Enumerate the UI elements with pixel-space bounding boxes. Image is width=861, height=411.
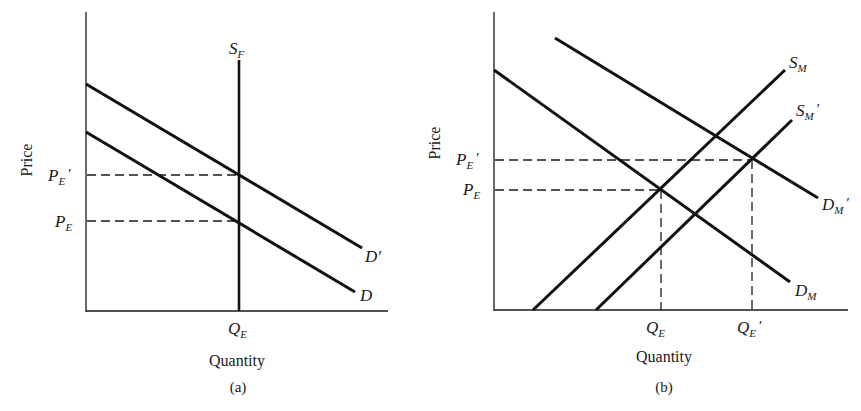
panel-b-supply-sm-prime <box>596 120 792 310</box>
panel-b-qe-label: QE <box>646 318 665 339</box>
panel-a-x-axis-title: Quantity <box>209 352 265 370</box>
panel-a-pe-label: PE <box>54 212 72 233</box>
panel-b-sm-prime-label: SM′ <box>796 101 820 122</box>
panel-b-sm-label: SM <box>789 53 808 74</box>
panel-a-qe-label: QE <box>228 319 247 340</box>
panel-b-demand-dm <box>494 70 790 282</box>
panel-b-dm-label: DM <box>794 281 817 302</box>
panel-b-dm-prime-label: DM′ <box>821 195 849 216</box>
panel-a-caption: (a) <box>230 379 247 396</box>
panel-b-x-axis-title: Quantity <box>636 348 692 366</box>
panel-a-d-prime-label: D′ <box>364 247 381 266</box>
panel-b-caption: (b) <box>655 379 673 396</box>
panel-a-demand-d-prime <box>86 84 362 248</box>
panel-b-demand-dm-prime <box>555 38 818 198</box>
panel-b: SM SM′ DM′ DM PE′ PE QE QE′ Quantity Pri… <box>426 12 849 396</box>
panel-b-pe-label: PE <box>462 180 480 201</box>
panel-b-y-axis-title: Price <box>426 127 443 160</box>
panel-a-d-label: D <box>359 286 373 305</box>
panel-b-pe-prime-label: PE′ <box>455 150 479 171</box>
panel-a-pe-prime-label: PE′ <box>47 166 71 187</box>
panel-a: SF D′ D PE′ PE QE Quantity Price (a) <box>18 12 388 396</box>
panel-a-demand-d <box>86 132 355 292</box>
panel-a-sf-label: SF <box>229 39 245 60</box>
panel-b-qe-prime-label: QE′ <box>737 318 762 339</box>
diagram-canvas: SF D′ D PE′ PE QE Quantity Price (a) SM … <box>0 0 861 411</box>
panel-a-y-axis-title: Price <box>18 144 35 177</box>
